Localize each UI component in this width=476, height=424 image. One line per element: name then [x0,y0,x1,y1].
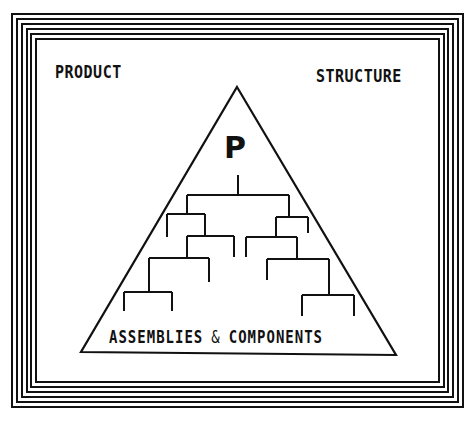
base-label-components: COMPONENTS [229,327,323,347]
base-label: ASSEMBLIES&COMPONENTS [109,327,323,347]
title-product: PRODUCT [55,62,122,83]
product-structure-diagram: PRODUCT STRUCTURE P ASSEMBLIES&COMPONENT… [0,0,476,424]
apex-product-letter: P [224,130,247,165]
title-structure: STRUCTURE [316,66,402,87]
tree-structure [124,175,354,316]
base-label-ampersand: & [211,327,220,347]
base-label-assemblies: ASSEMBLIES [109,327,203,347]
pyramid-triangle [81,87,396,355]
